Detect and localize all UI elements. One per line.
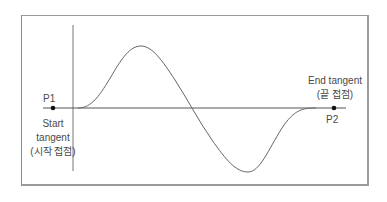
p1-label: P1 (43, 93, 55, 105)
end-tangent-line2: (끝 접점) (302, 89, 368, 101)
start-tangent-label: Start tangent (시작 접점) (28, 118, 78, 158)
bezier-curve (78, 46, 316, 172)
p2-point (332, 106, 337, 111)
end-tangent-line1: End tangent (302, 75, 368, 87)
p1-point (51, 106, 56, 111)
end-tangent-label: End tangent (끝 접점) (302, 75, 368, 101)
start-tangent-line1: Start (28, 118, 78, 130)
start-tangent-line2: tangent (28, 132, 78, 144)
tangent-curve-diagram (0, 0, 387, 202)
start-tangent-line3: (시작 접점) (28, 146, 78, 158)
p2-label: P2 (326, 114, 338, 126)
